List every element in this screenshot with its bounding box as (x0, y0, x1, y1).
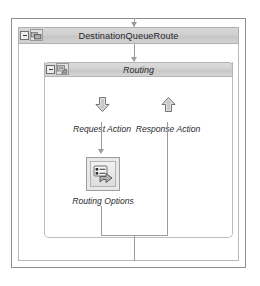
routing-title: Routing (45, 65, 232, 75)
collapse-toggle-icon[interactable] (46, 65, 55, 74)
routing-shape-icon (56, 63, 69, 75)
routing-header-controls (46, 63, 69, 75)
node-routing-options-label: Routing Options (60, 196, 146, 206)
arrowhead-into-routing-options (98, 149, 104, 154)
routing-header[interactable]: Routing (44, 62, 233, 77)
connector-into-routing (134, 44, 135, 58)
connector-request-to-routing-options (101, 122, 102, 150)
collapse-toggle-icon[interactable] (20, 31, 29, 40)
destination-queue-route-header-controls (20, 29, 43, 41)
routing-shape[interactable] (44, 62, 233, 238)
node-routing-options[interactable]: Routing Options (60, 157, 146, 206)
connector-routing-options-down (101, 206, 102, 235)
node-request-action-label: Request Action (73, 124, 131, 134)
node-response-action[interactable]: Response Action (124, 96, 212, 136)
route-shape-icon (30, 29, 43, 41)
connector-response-action-down (167, 122, 168, 235)
node-response-action-label: Response Action (136, 124, 201, 134)
destination-queue-route-header[interactable]: DestinationQueueRoute (18, 27, 239, 44)
routing-options-icon (86, 157, 120, 191)
diagram-canvas: DestinationQueueRoute Routing (0, 0, 260, 286)
destination-queue-route-title: DestinationQueueRoute (19, 31, 238, 41)
connector-merge-down (134, 235, 135, 261)
arrow-up-icon (124, 96, 212, 117)
